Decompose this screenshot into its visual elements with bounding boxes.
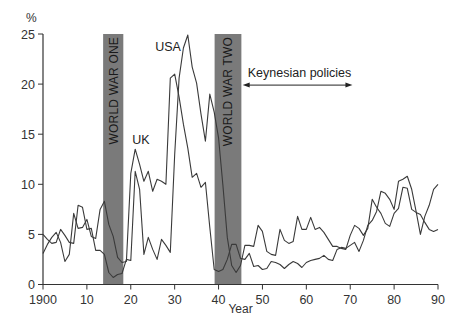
y-tick-label: 25: [21, 28, 35, 42]
x-tick-label: 50: [255, 293, 269, 307]
y-unit-label: %: [26, 11, 37, 25]
series-label-uk: UK: [132, 133, 150, 147]
war-label-2: WORLD WAR TWO: [221, 37, 235, 146]
y-tick-label: 5: [28, 228, 35, 242]
x-tick-label: 1900: [29, 293, 57, 307]
keynesian-policies-label: Keynesian policies: [248, 66, 352, 80]
y-tick-label: 10: [21, 178, 35, 192]
y-tick-label: 0: [28, 278, 35, 292]
x-axis-title: Year: [228, 302, 252, 316]
y-axis-ticks: 0510152025: [21, 28, 43, 293]
annotations: USAUKKeynesian policies: [132, 40, 352, 147]
y-tick-label: 15: [21, 128, 35, 142]
x-tick-label: 90: [431, 293, 445, 307]
x-tick-label: 70: [343, 293, 357, 307]
unemployment-line-chart: WORLD WAR ONEWORLD WAR TWO 0510152025 19…: [0, 0, 465, 329]
x-tick-label: 40: [212, 293, 226, 307]
x-tick-label: 80: [387, 293, 401, 307]
y-tick-label: 20: [21, 78, 35, 92]
war-label-1: WORLD WAR ONE: [107, 37, 121, 145]
x-tick-label: 30: [168, 293, 182, 307]
arrow-right-icon: [345, 83, 352, 88]
series-label-usa: USA: [155, 40, 181, 54]
x-tick-label: 10: [80, 293, 94, 307]
x-tick-label: 60: [299, 293, 313, 307]
x-tick-label: 20: [124, 293, 138, 307]
arrow-left-icon: [243, 83, 250, 88]
